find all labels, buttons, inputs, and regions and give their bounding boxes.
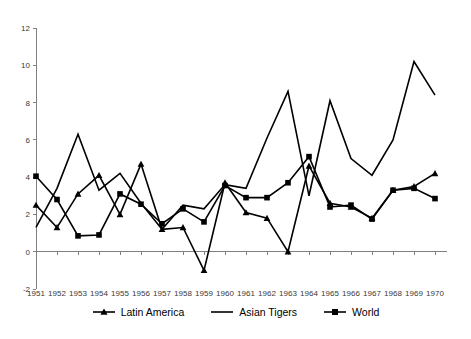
x-tick-label: 1964 bbox=[300, 289, 318, 298]
data-point-marker bbox=[117, 211, 124, 217]
data-point-marker bbox=[96, 232, 102, 238]
x-tick-label: 1960 bbox=[216, 289, 234, 298]
y-tick-label: 6 bbox=[26, 136, 31, 145]
x-tick-label: 1958 bbox=[174, 289, 192, 298]
legend-item-latin-america[interactable]: Latin America bbox=[92, 306, 185, 318]
data-point-marker bbox=[369, 216, 375, 222]
legend-marker-icon bbox=[92, 306, 116, 318]
legend-label: Latin America bbox=[121, 306, 185, 318]
data-point-marker bbox=[432, 170, 439, 176]
legend-label: World bbox=[352, 306, 379, 318]
data-point-marker bbox=[117, 191, 123, 197]
x-tick-label: 1968 bbox=[384, 289, 402, 298]
x-tick-label: 1951 bbox=[27, 289, 45, 298]
x-tick-label: 1953 bbox=[69, 289, 87, 298]
y-axis-tick-labels: -2024681012 bbox=[21, 24, 30, 294]
y-tick-label: 10 bbox=[21, 61, 30, 70]
x-tick-label: 1952 bbox=[48, 289, 66, 298]
data-point-marker bbox=[306, 154, 312, 160]
y-tick-label: 8 bbox=[26, 99, 31, 108]
data-point-marker bbox=[411, 186, 417, 192]
x-tick-label: 1963 bbox=[279, 289, 297, 298]
legend-label: Asian Tigers bbox=[239, 306, 297, 318]
data-point-marker bbox=[285, 180, 291, 186]
y-tick-label: 2 bbox=[26, 210, 31, 219]
data-point-marker bbox=[33, 202, 40, 208]
x-tick-label: 1959 bbox=[195, 289, 213, 298]
y-tick-label: 4 bbox=[26, 173, 31, 182]
data-point-marker bbox=[54, 197, 60, 203]
line-chart: -2024681012 1951195219531954195519561957… bbox=[0, 0, 471, 339]
data-point-marker bbox=[138, 201, 144, 207]
x-tick-label: 1967 bbox=[363, 289, 381, 298]
y-axis: -2024681012 bbox=[21, 24, 36, 294]
legend-marker-icon bbox=[323, 306, 347, 318]
data-series-group bbox=[33, 62, 439, 274]
data-point-marker bbox=[327, 204, 333, 210]
y-tick-label: 12 bbox=[21, 24, 30, 33]
data-point-marker bbox=[222, 183, 228, 189]
x-tick-label: 1961 bbox=[237, 289, 255, 298]
data-point-marker bbox=[96, 172, 103, 178]
legend-item-world[interactable]: World bbox=[323, 306, 379, 318]
x-tick-label: 1965 bbox=[321, 289, 339, 298]
data-point-marker bbox=[33, 173, 39, 179]
chart-plot-area: -2024681012 1951195219531954195519561957… bbox=[0, 0, 471, 339]
series-line bbox=[36, 62, 435, 230]
legend-item-asian-tigers[interactable]: Asian Tigers bbox=[210, 306, 297, 318]
x-axis: 1951195219531954195519561957195819591960… bbox=[27, 252, 447, 298]
x-tick-label: 1969 bbox=[405, 289, 423, 298]
x-tick-label: 1962 bbox=[258, 289, 276, 298]
data-point-marker bbox=[138, 161, 145, 167]
y-tick-label: 0 bbox=[26, 248, 31, 257]
x-tick-label: 1957 bbox=[153, 289, 171, 298]
data-point-marker bbox=[159, 221, 165, 227]
data-point-marker bbox=[348, 202, 354, 208]
data-point-marker bbox=[201, 219, 207, 225]
data-point-marker bbox=[201, 267, 208, 273]
data-point-marker bbox=[390, 187, 396, 193]
chart-legend: Latin AmericaAsian TigersWorld bbox=[0, 306, 471, 318]
x-tick-label: 1966 bbox=[342, 289, 360, 298]
data-point-marker bbox=[432, 196, 438, 202]
x-tick-label: 1955 bbox=[111, 289, 129, 298]
x-tick-label: 1954 bbox=[90, 289, 108, 298]
legend-marker-icon bbox=[210, 306, 234, 318]
data-point-marker bbox=[264, 195, 270, 201]
x-tick-label: 1970 bbox=[426, 289, 444, 298]
data-point-marker bbox=[75, 233, 81, 239]
data-point-marker bbox=[180, 206, 186, 212]
x-axis-tick-labels: 1951195219531954195519561957195819591960… bbox=[27, 289, 444, 298]
x-tick-label: 1956 bbox=[132, 289, 150, 298]
series-asian-tigers bbox=[36, 62, 435, 230]
data-point-marker bbox=[243, 195, 249, 201]
